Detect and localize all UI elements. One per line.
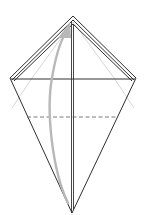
origami-diagram [0,0,153,215]
kite-outline [10,16,136,213]
center-line [72,22,74,213]
